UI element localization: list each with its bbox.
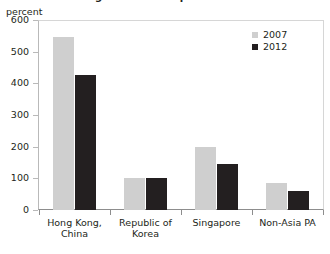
y-axis-tick-label: 0 <box>23 204 29 215</box>
chart-title: Figure: Relative price levels <box>0 0 330 2</box>
x-axis-tick-mark <box>181 210 182 215</box>
x-axis-category-label: Hong Kong, China <box>39 217 110 239</box>
bar-2007[interactable] <box>53 37 74 210</box>
legend-swatch-2012-icon <box>252 44 258 50</box>
y-axis-tick-mark <box>33 20 38 21</box>
y-axis-tick-label: 600 <box>11 14 29 25</box>
x-axis-category-label: Singapore <box>181 217 252 228</box>
bar-group <box>195 20 238 210</box>
x-axis-tick-mark <box>110 210 111 215</box>
legend-swatch-2007-icon <box>252 32 258 38</box>
bar-2012[interactable] <box>146 178 167 210</box>
bar-chart: Figure: Relative price levels percent 01… <box>0 0 330 254</box>
y-axis-tick-label: 200 <box>11 141 29 152</box>
y-axis-tick-mark <box>33 147 38 148</box>
legend: 2007 2012 <box>252 29 287 53</box>
bar-group <box>124 20 167 210</box>
bar-2012[interactable] <box>288 191 309 210</box>
legend-label-2007: 2007 <box>263 29 287 41</box>
y-axis-tick-mark <box>33 83 38 84</box>
bar-2007[interactable] <box>195 147 216 210</box>
bar-2012[interactable] <box>75 75 96 210</box>
x-axis-tick-mark <box>323 210 324 215</box>
legend-label-2012: 2012 <box>263 41 287 53</box>
legend-item-2012[interactable]: 2012 <box>252 41 287 53</box>
legend-item-2007[interactable]: 2007 <box>252 29 287 41</box>
bar-2012[interactable] <box>217 164 238 210</box>
y-axis-tick-mark <box>33 52 38 53</box>
x-axis-tick-mark <box>252 210 253 215</box>
y-axis-tick-label: 300 <box>11 109 29 120</box>
x-axis-category-label: Non-Asia PA <box>252 217 323 228</box>
bar-2007[interactable] <box>124 178 145 210</box>
y-axis-tick-label: 400 <box>11 77 29 88</box>
y-axis-tick-mark <box>33 210 38 211</box>
x-axis-category-label: Republic of Korea <box>110 217 181 239</box>
bar-2007[interactable] <box>266 183 287 210</box>
y-axis-tick-label: 500 <box>11 46 29 57</box>
x-axis-tick-mark <box>39 210 40 215</box>
y-axis-tick-mark <box>33 178 38 179</box>
bar-group <box>53 20 96 210</box>
y-axis-tick-mark <box>33 115 38 116</box>
y-axis-tick-label: 100 <box>11 172 29 183</box>
